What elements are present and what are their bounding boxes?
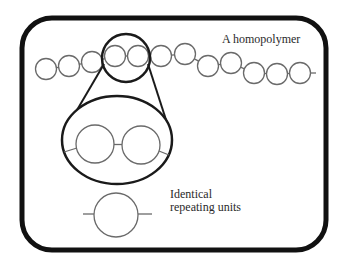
repeating-units-label-line2: repeating units (170, 201, 241, 214)
single-repeating-unit (83, 193, 152, 237)
monomer-circle (290, 63, 311, 84)
monomer-circle (82, 52, 103, 73)
unit-circle (94, 193, 138, 237)
monomer-circle (105, 46, 126, 67)
monomer-circle (198, 56, 219, 77)
monomer-circle (221, 53, 242, 74)
monomer-circle (36, 59, 57, 80)
magnifier-callout (62, 34, 172, 184)
highlight-circle (102, 34, 150, 82)
monomer-circle (151, 46, 172, 67)
monomer-circle (128, 46, 149, 67)
zoom-ellipse (62, 96, 172, 184)
homopolymer-label: A homopolymer (222, 33, 300, 46)
monomer-circle (267, 64, 288, 85)
repeating-units-label: Identical repeating units (170, 188, 241, 214)
bond-line (194, 59, 198, 61)
homopolymer-diagram: A homopolymer Identical repeating units (0, 0, 345, 264)
monomer-circle (59, 56, 80, 77)
polymer-chain (36, 44, 317, 85)
monomer-circle (244, 63, 265, 84)
monomer-circle (175, 44, 196, 65)
